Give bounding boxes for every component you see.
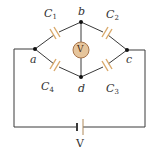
node-c xyxy=(125,48,129,52)
label-node-c: c xyxy=(126,54,132,65)
wire-a-b xyxy=(35,22,81,49)
label-c3: C3 xyxy=(106,83,119,96)
label-c4: C4 xyxy=(41,81,54,94)
node-b xyxy=(79,20,83,24)
capacitor-c4 xyxy=(50,59,60,71)
node-a xyxy=(33,47,37,51)
circuit-diagram xyxy=(0,0,152,153)
label-node-b: b xyxy=(78,6,85,17)
label-node-a: a xyxy=(30,54,37,65)
battery-icon xyxy=(77,119,83,135)
label-node-d: d xyxy=(78,83,85,94)
node-d xyxy=(79,75,83,79)
voltmeter-label: V xyxy=(77,45,84,54)
battery-label: V xyxy=(76,138,84,149)
capacitor-c3 xyxy=(102,59,112,71)
label-c1: C1 xyxy=(44,8,57,21)
label-c2: C2 xyxy=(106,9,119,22)
